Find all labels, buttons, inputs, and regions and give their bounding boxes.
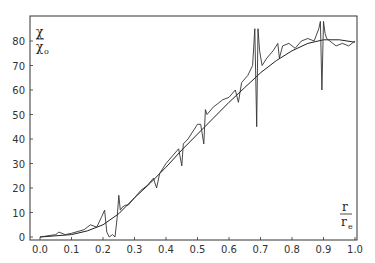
measured-curve <box>40 21 355 237</box>
x-tick-label: 0.0 <box>32 244 48 255</box>
x-tick-label: 0.5 <box>190 244 206 255</box>
y-tick-label: 70 <box>12 61 25 72</box>
svg-text:r: r <box>341 215 347 229</box>
x-tick-label: 0.7 <box>253 244 269 255</box>
x-tick-label: 0.9 <box>316 244 332 255</box>
smooth-curve <box>40 40 355 237</box>
y-tick-label: 40 <box>12 134 25 145</box>
plot-frame <box>30 16 357 240</box>
y-tick-label: 50 <box>12 110 25 121</box>
chart: 01020304050607080 0.00.10.20.30.40.50.60… <box>0 0 375 263</box>
x-tick-label: 0.2 <box>95 244 111 255</box>
x-tick-label: 0.6 <box>221 244 237 255</box>
x-tick-label: 0.8 <box>284 244 300 255</box>
svg-text:e: e <box>348 222 353 231</box>
y-tick-label: 0 <box>19 232 25 243</box>
y-tick-label: 60 <box>12 85 25 96</box>
y-tick-label: 10 <box>12 208 25 219</box>
x-tick-label: 0.4 <box>158 244 174 255</box>
x-axis-label: r r e <box>340 200 353 231</box>
svg-text:o: o <box>44 47 49 56</box>
y-tick-label: 30 <box>12 159 25 170</box>
svg-text:r: r <box>342 200 348 214</box>
y-tick-label: 20 <box>12 183 25 194</box>
x-tick-label: 1.0 <box>347 244 363 255</box>
x-tick-label: 0.1 <box>64 244 80 255</box>
y-axis-label: χ χ o <box>36 25 49 56</box>
y-tick-label: 80 <box>12 36 25 47</box>
x-tick-label: 0.3 <box>127 244 143 255</box>
svg-text:χ: χ <box>36 25 44 39</box>
svg-text:χ: χ <box>36 40 44 54</box>
